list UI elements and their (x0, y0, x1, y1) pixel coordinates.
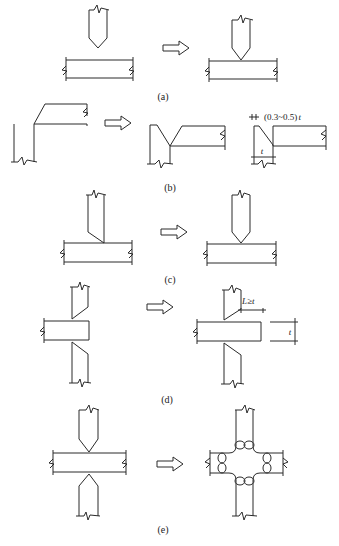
caption-c: (c) (164, 274, 175, 286)
caption-e: (e) (157, 524, 168, 536)
arrow-icon (157, 457, 183, 471)
panel-b-before (11, 104, 88, 165)
panel-c-after (203, 190, 277, 266)
arrow-icon (147, 300, 173, 314)
arrow-icon (163, 41, 189, 55)
panel-b-detail: (0.3~0.5)t t (249, 112, 326, 168)
weld-joint-diagram: (a) (0.3~0.5)t (0, 0, 339, 546)
panel-e: (e) (49, 405, 288, 536)
panel-a: (a) (62, 5, 278, 103)
panel-d: L≥t t (d) (40, 282, 298, 406)
weld-bead-right (263, 453, 271, 473)
panel-c: (c) (60, 190, 277, 286)
weld-bead-top (235, 441, 254, 449)
panel-a-before (62, 5, 134, 81)
length-annotation: L≥t (241, 296, 255, 306)
weld-bead-bottom (235, 477, 254, 485)
panel-e-after (205, 405, 288, 520)
weld-bead-left (218, 453, 226, 473)
thickness-annotation: t (261, 146, 264, 156)
panel-b: (0.3~0.5)t t (b) (11, 104, 326, 194)
panel-b-groove (147, 125, 225, 168)
arrow-icon (161, 225, 187, 239)
panel-d-after: L≥t t (193, 285, 298, 388)
caption-d: (d) (161, 394, 173, 406)
caption-a: (a) (157, 91, 168, 103)
panel-a-after (205, 15, 278, 82)
panel-c-before (60, 190, 133, 265)
caption-b: (b) (164, 182, 176, 194)
arrow-icon (105, 116, 131, 130)
panel-d-before (40, 282, 91, 387)
gap-annotation: (0.3~0.5)t (264, 112, 301, 122)
panel-e-before (49, 405, 127, 520)
thickness-annotation: t (289, 327, 292, 337)
